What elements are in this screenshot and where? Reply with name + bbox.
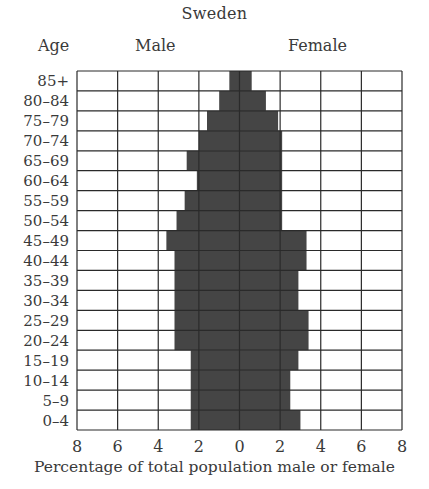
male-bar	[185, 191, 240, 211]
x-tick-label: 2	[275, 437, 285, 456]
x-tick-label: 8	[72, 437, 82, 456]
age-group-label: 15–19	[23, 352, 69, 370]
age-group-label: 30–34	[23, 292, 69, 310]
male-bar	[197, 171, 240, 191]
male-bar	[191, 350, 240, 370]
age-group-label: 85+	[37, 72, 69, 90]
x-tick-labels: 864202468	[72, 437, 407, 456]
x-tick-label: 6	[113, 437, 123, 456]
male-bar	[187, 151, 240, 171]
male-bar	[191, 390, 240, 410]
male-bar	[219, 91, 239, 111]
age-group-label: 0–4	[42, 412, 69, 430]
x-tick-label: 0	[234, 437, 244, 456]
female-bar	[240, 270, 299, 290]
age-group-label: 60–64	[23, 172, 69, 190]
female-bar	[240, 211, 283, 231]
female-bar	[240, 251, 307, 271]
x-tick-label: 4	[153, 437, 163, 456]
age-group-label: 40–44	[23, 252, 69, 270]
population-pyramid-plot: 85+80–8475–7970–7465–6960–6455–5950–5445…	[0, 0, 429, 489]
female-bar	[240, 171, 283, 191]
age-group-label: 70–74	[23, 132, 69, 150]
age-group-label: 25–29	[23, 312, 69, 330]
age-group-label: 80–84	[23, 92, 69, 110]
female-bar	[240, 350, 299, 370]
age-group-label: 75–79	[23, 112, 69, 130]
male-bar	[191, 370, 240, 390]
grid-lines	[77, 71, 402, 430]
male-bar	[177, 211, 240, 231]
female-bar	[240, 310, 309, 330]
age-group-label: 55–59	[23, 192, 69, 210]
x-tick-label: 2	[194, 437, 204, 456]
male-bar	[199, 131, 240, 151]
female-bar	[240, 370, 291, 390]
male-bar	[166, 231, 239, 251]
male-bar	[207, 111, 240, 131]
male-bar	[175, 290, 240, 310]
male-bar	[175, 330, 240, 350]
female-bar	[240, 131, 283, 151]
age-group-label: 20–24	[23, 332, 69, 350]
age-group-labels: 85+80–8475–7970–7465–6960–6455–5950–5445…	[23, 72, 69, 429]
age-group-label: 35–39	[23, 272, 69, 290]
x-tick-label: 6	[356, 437, 366, 456]
female-bar	[240, 231, 307, 251]
female-bar	[240, 410, 301, 430]
male-bar	[229, 71, 239, 91]
female-bar	[240, 71, 252, 91]
age-group-label: 45–49	[23, 232, 69, 250]
age-group-label: 10–14	[23, 372, 69, 390]
female-bar	[240, 390, 291, 410]
x-tick-label: 8	[397, 437, 407, 456]
female-bar	[240, 91, 266, 111]
female-bar	[240, 191, 283, 211]
age-group-label: 5–9	[42, 392, 69, 410]
male-bar	[175, 310, 240, 330]
male-bar	[175, 251, 240, 271]
female-bar	[240, 330, 309, 350]
x-tick-label: 4	[316, 437, 326, 456]
female-bar	[240, 290, 299, 310]
age-group-label: 65–69	[23, 152, 69, 170]
x-axis-label: Percentage of total population male or f…	[0, 458, 429, 476]
male-bar	[175, 270, 240, 290]
female-bar	[240, 151, 283, 171]
female-bar	[240, 111, 279, 131]
male-bar	[191, 410, 240, 430]
age-group-label: 50–54	[23, 212, 69, 230]
